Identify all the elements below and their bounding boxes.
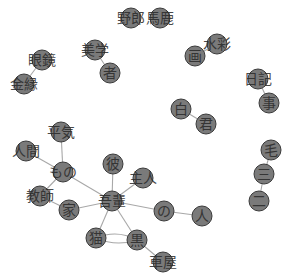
node-megane: 眼鏡: [28, 50, 56, 70]
node-mono: もの: [49, 162, 77, 182]
node-label: 君: [199, 116, 213, 132]
node-hito: 人: [192, 206, 212, 226]
node-kare: 彼: [103, 154, 123, 174]
node-label: の: [157, 203, 171, 219]
node-san: 三: [254, 164, 274, 184]
node-label: 二: [252, 193, 266, 209]
node-label: 者: [103, 65, 117, 81]
node-ie: 家: [59, 200, 79, 220]
node-kuro: 黒: [127, 230, 147, 250]
node-ji: 事: [259, 93, 279, 113]
node-suisai: 水彩: [203, 34, 231, 54]
node-nikki: 日記: [244, 69, 272, 89]
node-shiro: 白: [171, 99, 191, 119]
node-label: 主人: [129, 170, 157, 186]
node-label: 人間: [12, 143, 40, 159]
node-sha: 者: [100, 63, 120, 83]
edges-layer: [24, 44, 271, 262]
node-bigaku: 美学: [81, 40, 109, 60]
network-graph-canvas: 野郎馬鹿眼鏡金縁美学者水彩画日記事白君毛三二平気人間もの教師家彼主人吾輩の人猫黒…: [0, 0, 289, 279]
node-kurumaya: 車屋: [149, 252, 177, 272]
node-label: 彼: [106, 156, 120, 172]
node-yarou: 野郎: [117, 8, 145, 28]
node-heiki: 平気: [47, 122, 75, 142]
node-label: 毛: [264, 142, 278, 158]
node-label: 美学: [81, 42, 109, 58]
node-kun: 君: [196, 114, 216, 134]
node-label: 家: [62, 202, 76, 218]
node-label: 三: [257, 166, 271, 182]
node-label: 車屋: [149, 254, 177, 270]
node-label: 白: [174, 101, 188, 117]
node-kyoshi: 教師: [26, 186, 54, 206]
node-baka: 馬鹿: [146, 8, 174, 28]
node-label: 平気: [47, 124, 75, 140]
node-wagahai: 吾輩: [98, 191, 126, 211]
node-label: もの: [49, 164, 77, 180]
node-neko: 猫: [86, 228, 106, 248]
node-ga: 画: [185, 46, 205, 66]
node-ningen: 人間: [12, 141, 40, 161]
node-ni: 二: [249, 191, 269, 211]
node-label: 画: [188, 48, 202, 64]
nodes-layer: 野郎馬鹿眼鏡金縁美学者水彩画日記事白君毛三二平気人間もの教師家彼主人吾輩の人猫黒…: [10, 8, 281, 272]
node-label: 水彩: [203, 36, 231, 52]
node-label: 黒: [130, 232, 144, 248]
node-label: 日記: [244, 71, 272, 87]
network-diagram: 野郎馬鹿眼鏡金縁美学者水彩画日記事白君毛三二平気人間もの教師家彼主人吾輩の人猫黒…: [0, 0, 289, 279]
node-shujin: 主人: [129, 168, 157, 188]
node-kinbuchi: 金縁: [10, 74, 38, 94]
node-label: 猫: [89, 230, 103, 246]
node-label: 教師: [26, 188, 54, 204]
node-label: 金縁: [10, 76, 38, 92]
node-label: 馬鹿: [146, 10, 174, 26]
node-label: 吾輩: [98, 193, 126, 209]
node-ke: 毛: [261, 140, 281, 160]
node-label: 野郎: [117, 10, 145, 26]
node-no: の: [154, 201, 174, 221]
node-label: 眼鏡: [28, 52, 56, 68]
node-label: 人: [195, 208, 209, 224]
node-label: 事: [262, 95, 276, 111]
